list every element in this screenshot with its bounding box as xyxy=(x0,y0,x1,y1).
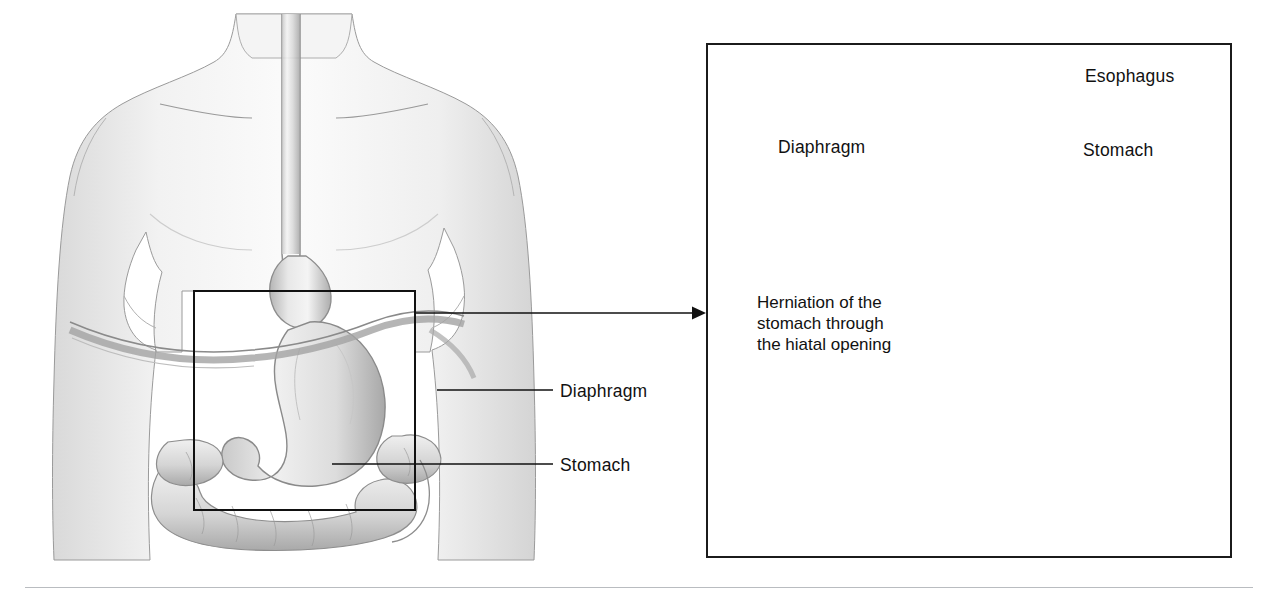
label-stomach-overview: Stomach xyxy=(560,455,630,476)
caption-line-3: the hiatal opening xyxy=(757,334,891,355)
caption-line-1: Herniation of the xyxy=(757,292,891,313)
footer-rule xyxy=(25,587,1253,588)
label-stomach-detail: Stomach xyxy=(1083,140,1153,161)
herniation-caption: Herniation of the stomach through the hi… xyxy=(757,292,891,355)
stomach-overview xyxy=(222,322,385,486)
label-esophagus: Esophagus xyxy=(1085,66,1174,87)
label-diaphragm-overview: Diaphragm xyxy=(560,381,647,402)
magnification-arrow xyxy=(415,307,706,320)
label-diaphragm-detail: Diaphragm xyxy=(778,137,865,158)
caption-line-2: stomach through xyxy=(757,313,891,334)
figure-canvas: Diaphragm Stomach Esophagus Stomach Diap… xyxy=(0,0,1268,602)
torso-illustration xyxy=(53,14,536,560)
